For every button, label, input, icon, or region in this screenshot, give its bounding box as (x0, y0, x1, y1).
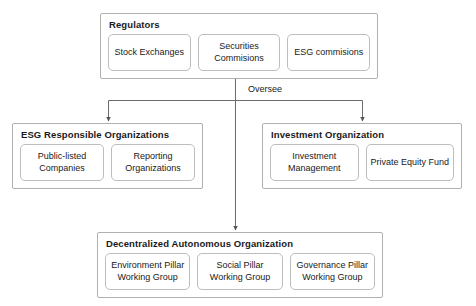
group-children-regulators: Stock Exchanges Securities Commisions ES… (108, 34, 370, 71)
node-reporting-organizations[interactable]: Reporting Organizations (111, 144, 195, 181)
group-regulators[interactable]: Regulators Stock Exchanges Securities Co… (100, 13, 378, 79)
group-title-esg-responsible-organizations: ESG Responsible Organizations (21, 129, 169, 140)
node-public-listed-companies[interactable]: Public-listed Companies (20, 144, 104, 181)
node-esg-commisions[interactable]: ESG commisions (287, 34, 370, 71)
organization-diagram: Oversee Regulators Stock Exchanges Secur… (0, 0, 476, 306)
group-title-regulators: Regulators (109, 19, 160, 30)
group-decentralized-autonomous-organization[interactable]: Decentralized Autonomous Organization En… (97, 232, 383, 298)
edge-label-oversee: Oversee (248, 84, 282, 94)
group-title-decentralized-autonomous-organization: Decentralized Autonomous Organization (106, 238, 293, 249)
node-governance-pillar-working-group[interactable]: Governance Pillar Working Group (290, 253, 375, 290)
node-securities-commisions[interactable]: Securities Commisions (198, 34, 281, 71)
node-private-equity-fund[interactable]: Private Equity Fund (366, 144, 455, 181)
node-investment-management[interactable]: Investment Management (270, 144, 359, 181)
node-stock-exchanges[interactable]: Stock Exchanges (108, 34, 191, 71)
node-social-pillar-working-group[interactable]: Social Pillar Working Group (197, 253, 282, 290)
group-title-investment-organization: Investment Organization (271, 129, 384, 140)
group-children-esg-responsible-organizations: Public-listed Companies Reporting Organi… (20, 144, 195, 181)
group-esg-responsible-organizations[interactable]: ESG Responsible Organizations Public-lis… (12, 123, 203, 189)
node-environment-pillar-working-group[interactable]: Environment Pillar Working Group (105, 253, 190, 290)
group-children-decentralized-autonomous-organization: Environment Pillar Working Group Social … (105, 253, 375, 290)
group-children-investment-organization: Investment Management Private Equity Fun… (270, 144, 454, 181)
group-investment-organization[interactable]: Investment Organization Investment Manag… (262, 123, 462, 189)
